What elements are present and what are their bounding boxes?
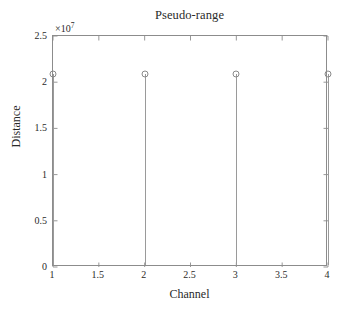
y-axis-tick-label: 1 — [42, 168, 47, 179]
data-point-marker — [325, 70, 332, 77]
chart-title: Pseudo-range — [52, 8, 327, 23]
stem-line — [328, 74, 329, 265]
x-axis-tick-label: 1.5 — [92, 269, 105, 280]
x-axis-tick-label: 1 — [50, 269, 55, 280]
chart-figure: Pseudo-range ×107 00.511.522.5 11.522.53… — [0, 0, 347, 313]
plot-area — [52, 35, 327, 266]
stem-line — [236, 74, 237, 265]
y-axis-tick-label: 1.5 — [35, 122, 48, 133]
x-axis-tick-label: 2.5 — [183, 269, 196, 280]
y-axis-tick-label: 2 — [42, 76, 47, 87]
stem-series — [53, 36, 326, 265]
plot-inner — [53, 36, 326, 265]
x-axis-tick-label: 3 — [233, 269, 238, 280]
y-axis-tick-labels: 00.511.522.5 — [20, 35, 47, 266]
x-axis-tick-label: 3.5 — [275, 269, 288, 280]
y-axis-exponent-label: ×107 — [55, 21, 74, 34]
data-point-marker — [141, 70, 148, 77]
x-axis-tick-label: 2 — [141, 269, 146, 280]
data-point-marker — [50, 70, 57, 77]
x-axis-tick-label: 4 — [325, 269, 330, 280]
y-axis-exponent-mantissa: ×10 — [55, 23, 71, 34]
stem-line — [145, 74, 146, 265]
y-axis-tick-label: 2.5 — [35, 30, 48, 41]
y-axis-tick-label: 0.5 — [35, 214, 48, 225]
y-axis-title: Distance — [9, 84, 24, 170]
y-axis-exponent-power: 7 — [71, 21, 75, 30]
data-point-marker — [233, 71, 240, 78]
x-axis-tick-labels: 11.522.533.54 — [52, 269, 327, 283]
y-axis-tick-label: 0 — [42, 261, 47, 272]
x-axis-title: Channel — [52, 287, 327, 302]
stem-line — [53, 74, 54, 265]
